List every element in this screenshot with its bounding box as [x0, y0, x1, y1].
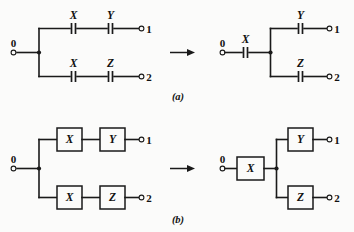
caption-panel-a: (a) [172, 91, 184, 103]
element-label-a-left-bot-z: Z [106, 57, 114, 69]
element-label-a-left-top-y: Y [107, 9, 115, 21]
capacitor-a-right-shared-x [244, 47, 248, 58]
terminal-a-left-out-top [139, 26, 144, 31]
circuit-diagram: 0 X Y 1 [0, 0, 354, 232]
panel-a-right-circuit: 0 X Y 1 [220, 9, 341, 83]
terminal-a-right-out-bot [327, 74, 332, 79]
terminal-b-right-input [220, 166, 225, 171]
caption-panel-b: (b) [172, 214, 184, 226]
block-label-b-right-shared-x: X [246, 162, 255, 174]
terminal-a-left-out-bot [139, 74, 144, 79]
panel-a-left-circuit: 0 X Y 1 [11, 9, 153, 83]
terminal-b-right-out-bot [327, 195, 332, 200]
transform-arrow-b [170, 165, 195, 172]
block-label-b-left-top-y: Y [109, 133, 117, 145]
element-label-a-right-bot-z: Z [296, 57, 304, 69]
junction-dot-a-right [268, 50, 272, 54]
terminal-a-right-out-top [327, 26, 332, 31]
panel-b-left-circuit: 0 X Y 1 X Z 2 [11, 128, 153, 209]
port-label-b-right-out-top: 1 [334, 134, 340, 146]
capacitor-a-left-top-x [72, 23, 76, 34]
element-label-a-left-bot-x: X [69, 57, 78, 69]
junction-dot-b-right [274, 166, 278, 170]
port-label-a-right-out-bot: 2 [334, 71, 340, 83]
terminal-b-left-out-bot [139, 195, 144, 200]
port-label-a-right-input: 0 [220, 37, 226, 49]
block-label-b-right-top-y: Y [297, 133, 305, 145]
port-label-b-right-input: 0 [220, 153, 226, 165]
capacitor-a-right-top-y [299, 23, 303, 34]
port-label-a-right-out-top: 1 [334, 23, 340, 35]
element-label-a-left-top-x: X [69, 9, 78, 21]
port-label-b-left-out-top: 1 [146, 134, 152, 146]
port-label-a-left-out-top: 1 [146, 23, 152, 35]
junction-dot-b-left [37, 166, 41, 170]
capacitor-a-left-top-y [109, 23, 113, 34]
element-label-a-right-top-y: Y [297, 9, 305, 21]
panel-b-right-circuit: 0 X Y 1 Z 2 [220, 128, 341, 209]
capacitor-a-left-bot-x [72, 71, 76, 82]
port-label-b-right-out-bot: 2 [334, 192, 340, 204]
junction-dot-a-left [37, 50, 41, 54]
capacitor-a-right-bot-z [299, 71, 303, 82]
capacitor-a-left-bot-z [109, 71, 113, 82]
terminal-a-right-input [220, 50, 225, 55]
figure-root: 0 X Y 1 [0, 0, 354, 232]
terminal-b-left-input [11, 166, 16, 171]
port-label-b-left-out-bot: 2 [146, 192, 152, 204]
port-label-a-left-out-bot: 2 [146, 71, 152, 83]
block-label-b-left-bot-z: Z [108, 191, 116, 203]
block-label-b-left-top-x: X [65, 133, 74, 145]
transform-arrow-a [170, 49, 195, 56]
port-label-b-left-input: 0 [11, 153, 17, 165]
terminal-b-right-out-top [327, 137, 332, 142]
element-label-a-right-shared-x: X [241, 33, 250, 45]
port-label-a-left-input: 0 [11, 37, 17, 49]
terminal-b-left-out-top [139, 137, 144, 142]
block-label-b-left-bot-x: X [65, 191, 74, 203]
block-label-b-right-bot-z: Z [296, 191, 304, 203]
terminal-a-left-input [11, 50, 16, 55]
